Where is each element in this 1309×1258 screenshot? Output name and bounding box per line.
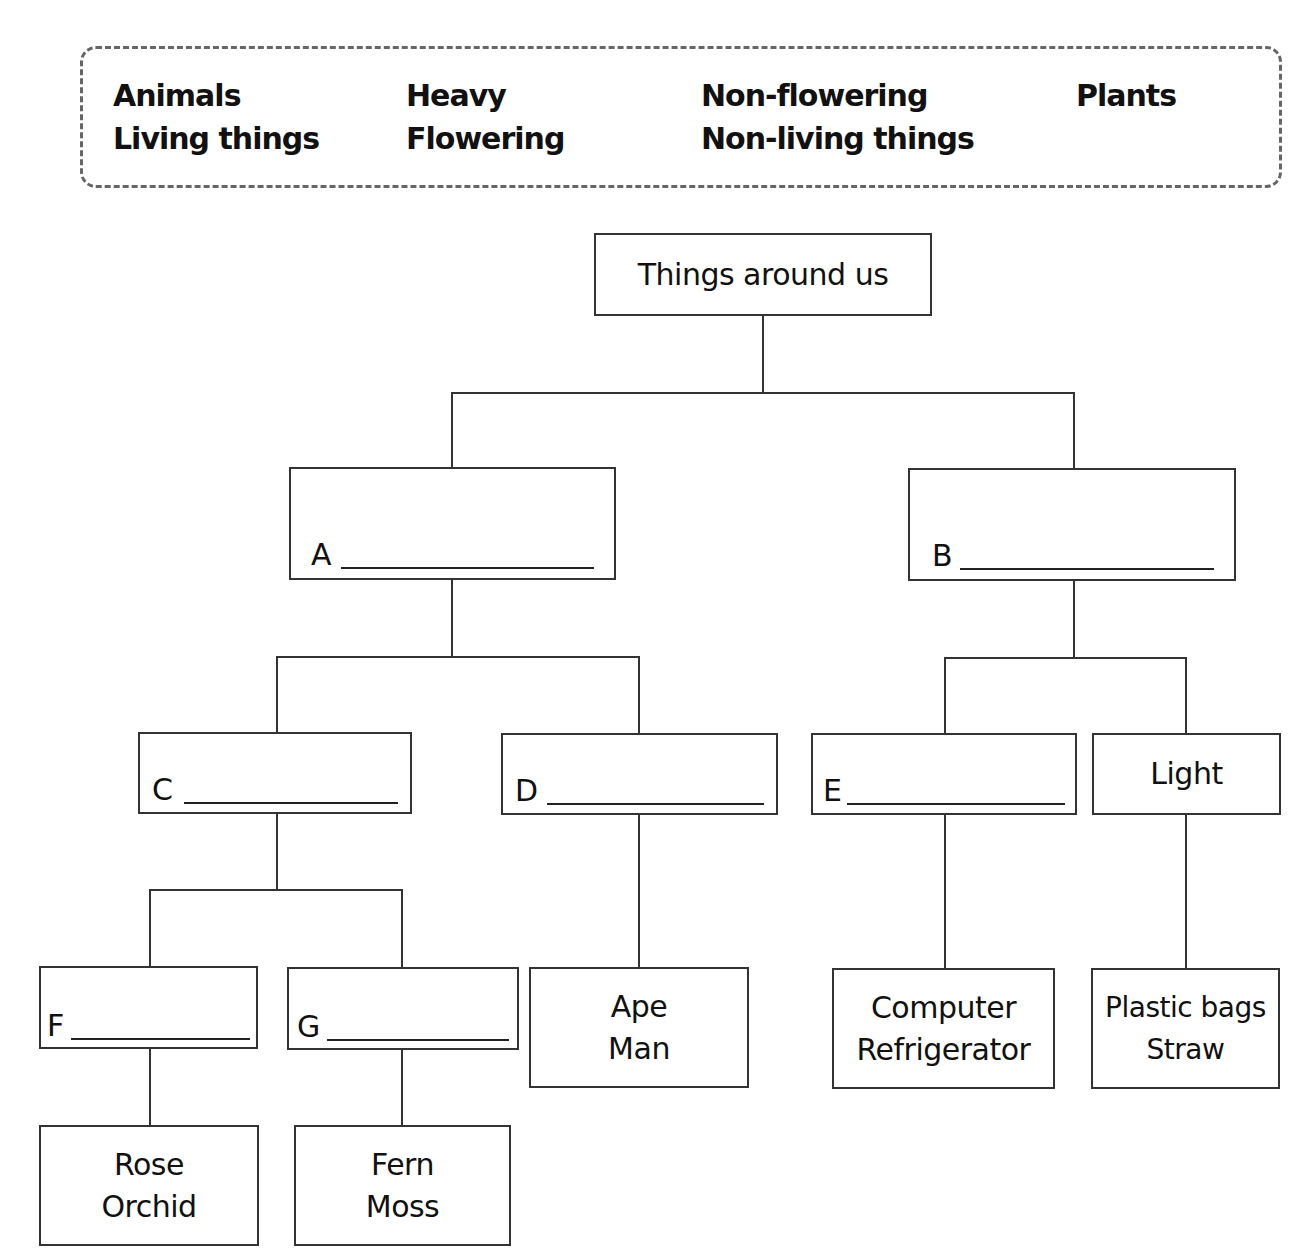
leaf-line: Fern — [296, 1144, 509, 1186]
node-light: Light — [1092, 733, 1281, 815]
node-e-letter: E — [823, 773, 841, 808]
node-b: B — [908, 468, 1236, 581]
node-d-answer-blank[interactable] — [547, 803, 764, 805]
node-b-letter: B — [932, 538, 952, 573]
word-plants: Plants — [1076, 78, 1176, 113]
leaf-line: Orchid — [41, 1186, 257, 1228]
word-living-things: Living things — [113, 121, 319, 156]
leaf-rose-text: Rose Orchid — [41, 1144, 257, 1228]
node-c-answer-blank[interactable] — [184, 802, 398, 804]
leaf-plastic-straw: Plastic bags Straw — [1091, 968, 1280, 1089]
leaf-line: Computer — [834, 987, 1053, 1029]
word-flowering: Flowering — [406, 121, 564, 156]
leaf-ape-man: Ape Man — [529, 967, 749, 1088]
connector — [1185, 657, 1187, 735]
connector — [276, 656, 278, 734]
connector — [149, 889, 403, 891]
connector — [944, 657, 946, 735]
leaf-plastic-text: Plastic bags Straw — [1093, 987, 1278, 1071]
word-animals: Animals — [113, 78, 241, 113]
leaf-line: Rose — [41, 1144, 257, 1186]
word-bank — [80, 46, 1282, 188]
node-g-letter: G — [297, 1009, 320, 1044]
connector — [1185, 814, 1187, 969]
connector — [149, 1048, 151, 1127]
connector — [401, 1048, 403, 1127]
node-g-answer-blank[interactable] — [327, 1039, 509, 1041]
connector — [762, 315, 764, 394]
connector — [1073, 392, 1075, 469]
node-g: G — [287, 967, 519, 1050]
word-heavy: Heavy — [406, 78, 506, 113]
word-non-living-things: Non-living things — [701, 121, 974, 156]
node-f-answer-blank[interactable] — [71, 1038, 250, 1040]
connector — [276, 656, 640, 658]
connector — [638, 656, 640, 734]
connector — [451, 392, 453, 469]
light-text: Light — [1094, 753, 1279, 795]
leaf-rose-orchid: Rose Orchid — [39, 1125, 259, 1246]
leaf-line: Plastic bags — [1093, 987, 1278, 1029]
node-c: C — [138, 732, 412, 814]
connector — [944, 814, 946, 969]
leaf-line: Man — [531, 1028, 747, 1070]
connector — [638, 813, 640, 969]
node-a-letter: A — [311, 537, 331, 572]
node-d-letter: D — [515, 773, 538, 808]
connector — [401, 889, 403, 968]
leaf-line: Ape — [531, 986, 747, 1028]
node-f-letter: F — [47, 1008, 64, 1043]
node-a-answer-blank[interactable] — [341, 567, 594, 569]
connector — [451, 579, 453, 658]
node-f: F — [39, 966, 258, 1049]
root-node: Things around us — [594, 233, 932, 316]
root-text: Things around us — [596, 254, 930, 296]
leaf-computer-refrigerator: Computer Refrigerator — [832, 968, 1055, 1089]
leaf-computer-text: Computer Refrigerator — [834, 987, 1053, 1071]
leaf-ape-man-text: Ape Man — [531, 986, 747, 1070]
leaf-line: Moss — [296, 1186, 509, 1228]
node-a: A — [289, 467, 616, 580]
connector — [276, 813, 278, 891]
word-non-flowering: Non-flowering — [701, 78, 927, 113]
leaf-line: Straw — [1093, 1029, 1278, 1071]
connector — [1073, 580, 1075, 659]
connector — [451, 392, 1075, 394]
leaf-fern-moss: Fern Moss — [294, 1125, 511, 1246]
node-e-answer-blank[interactable] — [847, 803, 1065, 805]
connector — [149, 889, 151, 968]
leaf-fern-text: Fern Moss — [296, 1144, 509, 1228]
node-b-answer-blank[interactable] — [960, 568, 1214, 570]
node-c-letter: C — [152, 772, 172, 807]
connector — [944, 657, 1187, 659]
node-d: D — [501, 733, 778, 815]
node-e: E — [811, 733, 1077, 815]
leaf-line: Refrigerator — [834, 1029, 1053, 1071]
